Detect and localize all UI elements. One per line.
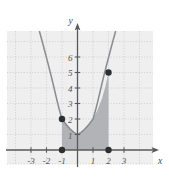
y-tick-label-2: 2 — [68, 115, 73, 125]
y-tick-label-5: 5 — [68, 68, 73, 78]
point-left-axis — [59, 147, 65, 153]
y-tick-label-3: 3 — [67, 99, 73, 109]
chart-svg: 1 2 3 4 5 6 -3 -2 -1 1 2 3 y x — [0, 0, 169, 180]
x-tick-label-neg1: -1 — [58, 156, 66, 166]
point-left-curve — [59, 116, 65, 122]
y-tick-label-6: 6 — [68, 53, 73, 63]
parabola-area-figure: 1 2 3 4 5 6 -3 -2 -1 1 2 3 y x — [0, 0, 169, 180]
x-axis-label: x — [157, 156, 163, 166]
y-tick-label-4: 4 — [68, 84, 73, 94]
x-tick-label-neg3: -3 — [27, 156, 35, 166]
point-right-curve — [105, 69, 111, 75]
x-tick-label-2: 2 — [106, 156, 111, 166]
point-right-axis — [105, 147, 111, 153]
y-axis-label: y — [67, 16, 73, 26]
x-tick-label-1: 1 — [91, 156, 96, 166]
x-tick-label-3: 3 — [121, 156, 127, 166]
x-tick-label-neg2: -2 — [43, 156, 51, 166]
y-tick-label-1: 1 — [68, 131, 73, 141]
